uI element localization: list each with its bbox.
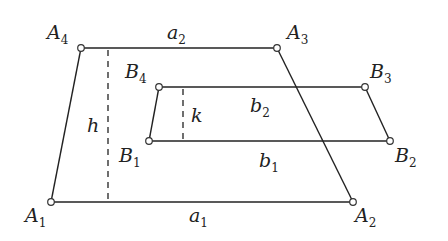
label-height-h: h: [87, 114, 99, 136]
edge-a3-a2: [277, 48, 353, 202]
label-side-b2: b2: [250, 94, 270, 120]
label-side-b1: b1: [259, 149, 279, 175]
vertex-a1-marker: [48, 199, 55, 206]
label-height-k: k: [191, 104, 203, 126]
label-b1: B1: [118, 144, 141, 170]
label-side-a2: a2: [167, 21, 186, 47]
edge-a1-a4: [51, 48, 81, 202]
label-a1: A1: [23, 204, 46, 230]
vertex-b4-marker: [156, 84, 163, 91]
label-a3: A3: [285, 21, 308, 47]
vertex-labels: A4 A3 A1 A2 B4 B3 B1 B2: [23, 21, 417, 230]
edge-b1-b4: [149, 87, 159, 141]
label-b4: B4: [124, 60, 147, 86]
label-b3: B3: [369, 60, 392, 86]
edge-b3-b2: [365, 87, 390, 141]
label-b2: B2: [394, 144, 417, 170]
vertex-b1-marker: [146, 138, 153, 145]
trapezoid-diagram: A4 A3 A1 A2 B4 B3 B1 B2 a2 a1 b2 b1 h k: [0, 0, 448, 241]
label-a2: A2: [353, 204, 376, 230]
vertex-markers: [48, 45, 394, 206]
vertex-b2-marker: [387, 138, 394, 145]
vertex-b3-marker: [362, 84, 369, 91]
vertex-a3-marker: [274, 45, 281, 52]
label-a4: A4: [45, 21, 69, 47]
label-side-a1: a1: [189, 204, 208, 230]
vertex-a4-marker: [78, 45, 85, 52]
